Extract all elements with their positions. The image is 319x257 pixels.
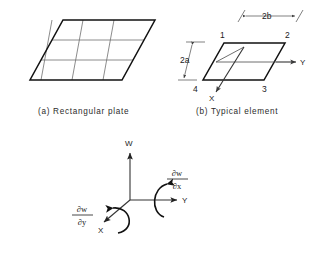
element-node-4-label: 4 <box>193 84 198 94</box>
element-outline <box>203 43 285 80</box>
dof-x-axis <box>104 200 130 222</box>
element-x-axis-label: X <box>209 94 215 103</box>
rotation-about-x-numerator: ∂w <box>172 168 183 178</box>
plate-outline <box>30 20 155 80</box>
panel-c-degrees-of-freedom: W Y X ∂w ∂x ∂w ∂y <box>72 139 188 235</box>
element-node-3-label: 3 <box>262 84 267 94</box>
dimension-2a: 2a <box>178 42 205 80</box>
rotation-about-y-numerator: ∂w <box>77 204 88 214</box>
dimension-2b-label: 2b <box>262 11 272 21</box>
rotation-about-x-label: ∂w ∂x <box>167 168 188 191</box>
dof-y-axis-label: Y <box>182 196 188 205</box>
element-y-axis-label: Y <box>300 58 306 67</box>
element-axis-construction <box>216 47 276 62</box>
panel-a-caption: (a) Rectangular plate <box>38 107 129 116</box>
dimension-2a-label: 2a <box>180 55 190 65</box>
figure-root: (a) Rectangular plate 2b 2a <box>0 0 319 257</box>
element-node-1-label: 1 <box>220 30 225 40</box>
dimension-2b: 2b <box>238 10 303 22</box>
rotation-about-y-denominator: ∂y <box>78 217 87 227</box>
rotation-about-y-label: ∂w ∂y <box>72 204 93 227</box>
plate-mesh-lines <box>41 20 144 80</box>
panel-b-typical-element: 2b 2a Y X 1 2 <box>178 10 306 116</box>
figure-svg: (a) Rectangular plate 2b 2a <box>0 0 319 257</box>
panel-b-caption: (b) Typical element <box>196 107 278 116</box>
rotation-about-x-denominator: ∂x <box>173 181 182 191</box>
dof-x-axis-label: X <box>98 226 104 235</box>
panel-a-rectangular-plate: (a) Rectangular plate <box>30 20 155 116</box>
element-x-axis <box>216 47 244 92</box>
element-node-2-label: 2 <box>285 30 290 40</box>
dof-w-axis-label: W <box>125 139 133 148</box>
